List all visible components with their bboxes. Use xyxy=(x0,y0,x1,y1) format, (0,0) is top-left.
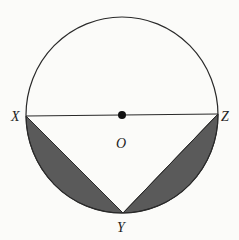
center-point-o xyxy=(118,111,126,119)
label-x: X xyxy=(10,109,20,124)
label-o: O xyxy=(116,136,126,151)
label-z: Z xyxy=(221,109,229,124)
label-y: Y xyxy=(117,220,127,235)
geometry-diagram: X Z O Y xyxy=(0,0,239,240)
